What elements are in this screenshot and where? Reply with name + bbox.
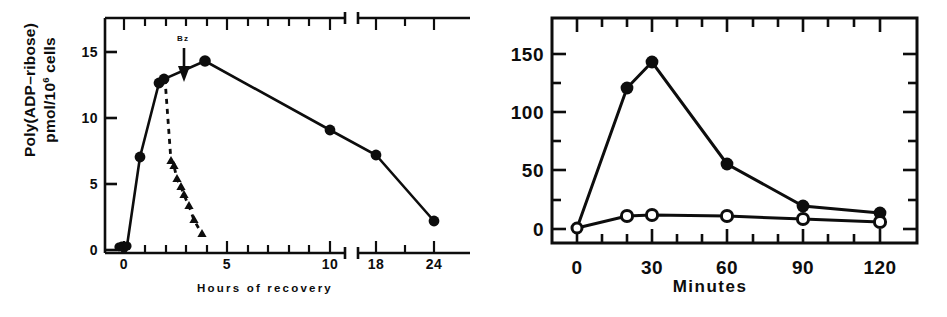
left-x-ticks-segment2 (376, 18, 434, 253)
right-chart-panel: 0 50 100 150 0 30 60 90 120 Minutes (470, 0, 947, 317)
left-series-markers (114, 55, 439, 252)
right-plot-canvas (470, 0, 947, 317)
left-series-filled-circle (114, 55, 439, 252)
right-axis-frame (552, 18, 917, 243)
right-series-open-circle (572, 209, 886, 233)
right-series-filled-circle (571, 56, 886, 234)
figure-root: Poly(ADP–ribose) pmol/106 cells 0 5 10 1… (0, 0, 947, 317)
left-series-filled-triangle (165, 79, 207, 237)
left-y-major-ticks (105, 52, 117, 250)
left-axis-frame (105, 12, 470, 259)
left-series-triangle-markers (166, 156, 206, 237)
right-filled-markers (571, 56, 886, 234)
bz-arrow-icon (178, 48, 190, 82)
left-x-ticks-segment1 (124, 18, 330, 253)
left-plot-canvas (0, 0, 470, 317)
left-chart-panel: Poly(ADP–ribose) pmol/106 cells 0 5 10 1… (0, 0, 470, 317)
